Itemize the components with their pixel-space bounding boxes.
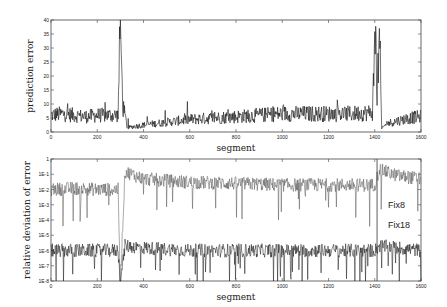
x-tick-label: 1400 bbox=[369, 134, 380, 140]
y-tick-label: 1E-7 bbox=[38, 263, 49, 269]
x-tick-label: 1200 bbox=[323, 283, 334, 289]
y-tick-label: 25 bbox=[43, 59, 49, 65]
x-tick-label: 400 bbox=[139, 134, 148, 140]
y-tick-label: 1 bbox=[46, 156, 49, 162]
x-tick-label: 800 bbox=[232, 283, 241, 289]
y-tick-label: 15 bbox=[43, 87, 49, 93]
series-prediction-error bbox=[51, 20, 421, 129]
y-tick-label: 30 bbox=[43, 45, 49, 51]
legend-fix18: Fix18 bbox=[388, 220, 410, 230]
y-tick-label: 40 bbox=[43, 17, 49, 23]
y-tick-label: 5 bbox=[46, 115, 49, 121]
chart-figure: 0200400600800100012001400160005101520253… bbox=[0, 0, 447, 307]
x-tick-label: 1200 bbox=[323, 134, 334, 140]
series-fix18 bbox=[51, 239, 421, 281]
x-tick-label: 200 bbox=[93, 283, 102, 289]
top-plot: 0200400600800100012001400160005101520253… bbox=[43, 17, 426, 140]
bottom-y-axis-title: relative deviation of error bbox=[22, 160, 32, 279]
x-tick-label: 800 bbox=[232, 134, 241, 140]
x-tick-label: 1000 bbox=[277, 134, 288, 140]
x-tick-label: 1600 bbox=[415, 134, 426, 140]
y-tick-label: 35 bbox=[43, 31, 49, 37]
y-tick-label: 0 bbox=[46, 129, 49, 135]
y-tick-label: 1E-1 bbox=[38, 171, 49, 177]
y-tick-label: 1E-8 bbox=[38, 278, 49, 284]
legend-fix8: Fix8 bbox=[388, 200, 405, 210]
x-tick-label: 1000 bbox=[277, 283, 288, 289]
x-tick-label: 0 bbox=[50, 134, 53, 140]
y-tick-label: 1E-4 bbox=[38, 217, 49, 223]
y-tick-label: 20 bbox=[43, 73, 49, 79]
y-tick-label: 1E-5 bbox=[38, 232, 49, 238]
y-tick-label: 1E-2 bbox=[38, 187, 49, 193]
x-tick-label: 1600 bbox=[415, 283, 426, 289]
x-tick-label: 600 bbox=[186, 283, 195, 289]
bottom-x-axis-title: segment bbox=[217, 292, 256, 302]
top-y-axis-title: prediction error bbox=[25, 39, 35, 113]
y-tick-label: 1E-6 bbox=[38, 248, 49, 254]
y-tick-label: 1E-3 bbox=[38, 202, 49, 208]
x-tick-label: 1400 bbox=[369, 283, 380, 289]
bottom-plot: 020040060080010001200140016001E-81E-71E-… bbox=[38, 156, 426, 289]
y-tick-label: 10 bbox=[43, 101, 49, 107]
x-tick-label: 400 bbox=[139, 283, 148, 289]
x-tick-label: 0 bbox=[50, 283, 53, 289]
x-tick-label: 200 bbox=[93, 134, 102, 140]
top-x-axis-title: segment bbox=[217, 143, 256, 153]
x-tick-label: 600 bbox=[186, 134, 195, 140]
